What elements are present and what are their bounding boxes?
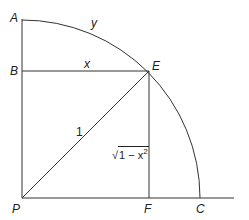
diagram-canvas: A B E P F C y x 1 √1 − x2 bbox=[0, 0, 249, 220]
point-label-B: B bbox=[10, 65, 18, 77]
sqrt-radicand: 1 − x2 bbox=[118, 146, 149, 161]
sqrt-exponent: 2 bbox=[143, 147, 147, 156]
point-label-P: P bbox=[12, 203, 20, 215]
arc-label-y: y bbox=[91, 17, 97, 29]
segment-label-x: x bbox=[84, 58, 90, 70]
point-label-E: E bbox=[152, 60, 160, 72]
sqrt-radicand-text: 1 − x bbox=[119, 149, 143, 161]
point-label-A: A bbox=[10, 12, 18, 24]
point-label-C: C bbox=[196, 203, 205, 215]
geometry-figure bbox=[0, 0, 249, 220]
segment-PE bbox=[22, 71, 149, 198]
segment-label-sqrt: √1 − x2 bbox=[112, 146, 149, 161]
point-label-F: F bbox=[144, 203, 151, 215]
segment-label-1: 1 bbox=[76, 126, 83, 138]
